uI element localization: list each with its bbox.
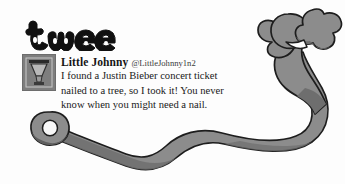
meme-canvas: Little Johnny@LittleJohnny1n2 I found a … bbox=[0, 0, 345, 184]
handle[interactable]: @LittleJohnny1n2 bbox=[131, 58, 195, 68]
avatar[interactable] bbox=[22, 54, 56, 91]
tweet-card: Little Johnny@LittleJohnny1n2 I found a … bbox=[22, 54, 282, 124]
tweet-line-3: know when you might need a nail. bbox=[61, 98, 282, 113]
display-name[interactable]: Little Johnny bbox=[61, 56, 128, 68]
tweet-text-block: Little Johnny@LittleJohnny1n2 I found a … bbox=[61, 54, 282, 113]
tweet-body: I found a Justin Bieber concert ticket n… bbox=[61, 69, 282, 113]
tweet-line-2: nailed to a tree, so I took it! You neve… bbox=[61, 84, 282, 99]
tweet-wordmark bbox=[24, 17, 119, 51]
tweet-line-1: I found a Justin Bieber concert ticket bbox=[61, 69, 282, 84]
tweet-author-line: Little Johnny@LittleJohnny1n2 bbox=[61, 55, 282, 68]
